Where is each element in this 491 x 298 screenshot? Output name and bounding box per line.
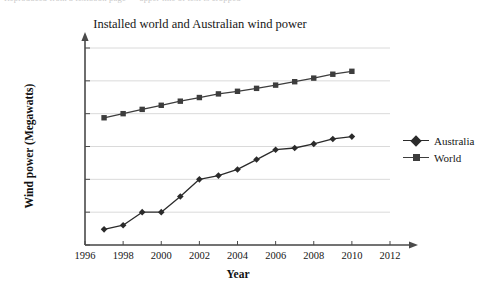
x-tick-label: 2000 — [151, 250, 172, 261]
data-point — [254, 86, 259, 91]
data-point — [349, 133, 356, 140]
data-point — [178, 98, 183, 103]
data-point — [215, 172, 222, 179]
legend-marker — [410, 135, 421, 146]
x-tick-label: 2010 — [341, 250, 362, 261]
data-point — [120, 111, 125, 116]
series-world — [101, 69, 354, 121]
data-point — [159, 103, 164, 108]
data-point — [330, 72, 335, 77]
data-point — [101, 226, 108, 233]
data-point — [273, 82, 278, 87]
x-tick-label: 2006 — [265, 250, 286, 261]
legend-label: World — [434, 152, 461, 164]
diamond-marker-icon — [403, 135, 429, 147]
x-tick-label: 2012 — [380, 250, 401, 261]
legend-marker — [413, 154, 420, 161]
data-point — [291, 145, 298, 152]
data-series-layer — [101, 69, 355, 233]
data-point — [292, 79, 297, 84]
data-point — [272, 146, 279, 153]
x-tick-label: 2004 — [227, 250, 248, 261]
data-point — [330, 136, 337, 143]
square-marker-icon — [403, 152, 429, 164]
axis-lines — [81, 32, 418, 249]
legend-label: Australia — [434, 135, 474, 147]
series-australia — [101, 133, 355, 232]
data-point — [253, 156, 260, 163]
data-point — [101, 115, 106, 120]
data-point — [349, 69, 354, 74]
x-tick-label: 2008 — [303, 250, 324, 261]
data-point — [234, 166, 241, 173]
data-point — [139, 107, 144, 112]
data-point — [216, 91, 221, 96]
x-tick-label: 2002 — [189, 250, 210, 261]
x-tick-label: 1998 — [113, 250, 134, 261]
data-point — [235, 89, 240, 94]
x-tick-label: 1996 — [75, 250, 96, 261]
gridlines — [85, 48, 390, 245]
data-point — [197, 95, 202, 100]
chart-legend: AustraliaWorld — [403, 132, 474, 166]
legend-item-world[interactable]: World — [403, 149, 474, 166]
chart-figure: Reproduced from a textbook page — upper … — [0, 0, 491, 298]
legend-item-australia[interactable]: Australia — [403, 132, 474, 149]
data-point — [311, 75, 316, 80]
